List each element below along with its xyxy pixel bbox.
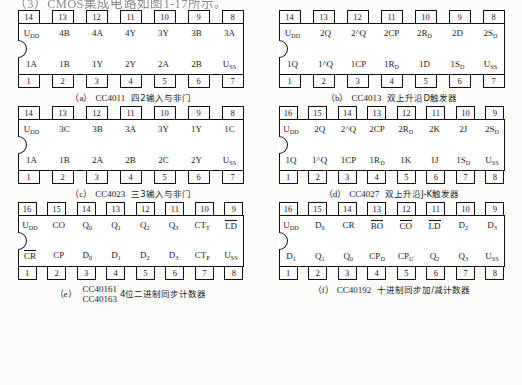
pin-number: 10	[456, 202, 475, 216]
notch-icon	[279, 40, 288, 58]
pin-number: 12	[397, 106, 416, 120]
chip-body: UDD2Q2^Q2CP2RD2D2SD1Q1^Q1CP1RD1D1SDUSS	[279, 23, 505, 75]
pin-number: 11	[120, 106, 142, 120]
pin-number-row-bottom: 12345678	[279, 170, 505, 184]
scanned-page: （3）CMOS集成电路如图1-17所示。 141312111098UDD4B4A…	[0, 0, 522, 385]
pin-number: 10	[154, 106, 176, 120]
chip-body: UDD3C3B3A3Y1Y1C1A1B2A2B2C2YUSS	[18, 119, 244, 171]
signal-label: 2SD	[482, 124, 501, 135]
chip-diagram-cc40192: 161514131211109UDDD0CRBOCOLDD2D3D1Q1Q0CP…	[279, 202, 505, 296]
pin-number: 7	[483, 74, 505, 88]
figure-caption: （a）CC4011四2输入与非门	[18, 93, 244, 104]
signal-label: CPU	[396, 251, 415, 262]
pin-number: 10	[456, 106, 475, 120]
signal-label: 1^Q	[310, 155, 329, 166]
caption-description: 4位二进制同步计数器	[120, 289, 206, 300]
notch-icon	[18, 232, 27, 250]
pin-number: 12	[86, 106, 108, 120]
pin-number: 3	[347, 74, 369, 88]
signal-label: 2CP	[381, 28, 403, 39]
diagram-cell-cc40192: 161514131211109UDDD0CRBOCOLDD2D3D1Q1Q0CP…	[261, 202, 522, 304]
pin-number: 12	[136, 202, 155, 216]
signal-label: USS	[219, 59, 241, 70]
signal-label: UDD	[282, 28, 304, 39]
signal-label: CPD	[368, 251, 387, 262]
pin-number: 1	[18, 266, 37, 280]
signal-label: 3C	[54, 124, 76, 135]
caption-part-number: CC40163	[83, 294, 118, 304]
signal-label: LD	[221, 220, 240, 232]
page-headline: （3）CMOS集成电路如图1-17所示。	[14, 0, 314, 9]
figure-caption: （d）CC4027双上升沿J-K触发器	[279, 189, 505, 200]
caption-tag: （d）	[324, 189, 347, 199]
pin-number: 16	[279, 202, 298, 216]
signal-label: 1RD	[381, 59, 403, 70]
signal-label: Q1	[310, 251, 329, 262]
pin-number-row-top: 141312111098	[279, 10, 505, 24]
pin-number: 11	[120, 10, 142, 24]
signal-label: D1	[282, 251, 301, 262]
signal-label: 2B	[186, 59, 208, 70]
chip-body: UDDD0CRBOCOLDD2D3D1Q1Q0CPDCPUQ2Q3USS	[279, 215, 505, 267]
pin-number: 9	[188, 106, 210, 120]
signal-label: 1A	[21, 59, 43, 70]
signal-label: 1Y	[87, 59, 109, 70]
pin-number: 13	[367, 202, 386, 216]
pin-number: 8	[485, 266, 504, 280]
caption-part-number: CC4023	[95, 189, 125, 199]
signal-label: D0	[78, 250, 97, 262]
pin-number: 10	[415, 10, 437, 24]
caption-tag: （e）	[55, 289, 77, 300]
pin-number: 13	[106, 202, 125, 216]
signal-label-row-top: UDD2Q2^Q2CP2RD2D2SD	[280, 28, 504, 39]
signal-label: UDD	[282, 124, 301, 135]
pin-number: 7	[222, 170, 244, 184]
signal-label: D1	[107, 250, 126, 262]
pin-number: 4	[367, 266, 386, 280]
signal-label: 1SD	[447, 59, 469, 70]
pin-number-row-bottom: 12345678	[279, 266, 505, 280]
signal-label-row-bottom: 1A1B2A2B2C2YUSS	[19, 155, 243, 166]
signal-label-row-top: UDDCOQ0Q1Q2Q3CTTLD	[19, 220, 243, 232]
signal-label: CO	[49, 220, 68, 232]
signal-label: 2^Q	[348, 28, 370, 39]
signal-label: CP	[49, 250, 68, 262]
signal-label: 2C	[153, 155, 175, 166]
signal-label: USS	[480, 59, 502, 70]
pin-number: 4	[120, 170, 142, 184]
diagram-cell-cc4023: 141312111098UDD3C3B3A3Y1Y1C1A1B2A2B2C2YU…	[0, 106, 261, 200]
pin-number: 12	[86, 10, 108, 24]
pin-number: 7	[456, 170, 475, 184]
pin-number: 7	[195, 266, 214, 280]
caption-description: 十进制同步加/减计数器	[377, 285, 470, 295]
pin-number: 11	[165, 202, 184, 216]
signal-label: 2K	[425, 124, 444, 135]
pin-number: 4	[367, 170, 386, 184]
signal-label: 3Y	[153, 124, 175, 135]
signal-label: 4B	[54, 28, 76, 39]
pin-number: 3	[338, 266, 357, 280]
pin-number: 11	[426, 202, 445, 216]
pin-number: 3	[77, 266, 96, 280]
notch-icon	[18, 136, 27, 154]
signal-label: BO	[368, 220, 387, 232]
caption-part-number: CC4013	[351, 93, 381, 103]
pin-number: 12	[397, 202, 416, 216]
pin-number: 5	[136, 266, 155, 280]
pin-number: 2	[313, 74, 335, 88]
signal-label: 1B	[54, 59, 76, 70]
signal-label: 1Q	[282, 59, 304, 70]
caption-part-number: CC4027	[349, 189, 379, 199]
pin-number: 14	[18, 106, 40, 120]
diagram-cell-cc4011: 141312111098UDD4B4A4Y3Y3B3A1A1B1Y2Y2A2BU…	[0, 10, 261, 104]
signal-label-row-bottom: 1Q1^Q1CP1RD1K1J1SDUSS	[280, 155, 504, 166]
signal-label-row-top: UDDD0CRBOCOLDD2D3	[280, 220, 504, 232]
chip-diagram-grid: 141312111098UDD4B4A4Y3Y3B3A1A1B1Y2Y2A2BU…	[0, 10, 522, 304]
chip-diagram-cc4023: 141312111098UDD3C3B3A3Y1Y1C1A1B2A2B2C2YU…	[18, 106, 244, 200]
pin-number: 10	[195, 202, 214, 216]
signal-label: 1D	[414, 59, 436, 70]
signal-label: CR	[21, 250, 40, 262]
signal-label: D3	[164, 250, 183, 262]
pin-number: 3	[86, 170, 108, 184]
pin-number-row-bottom: 1234567	[18, 170, 244, 184]
